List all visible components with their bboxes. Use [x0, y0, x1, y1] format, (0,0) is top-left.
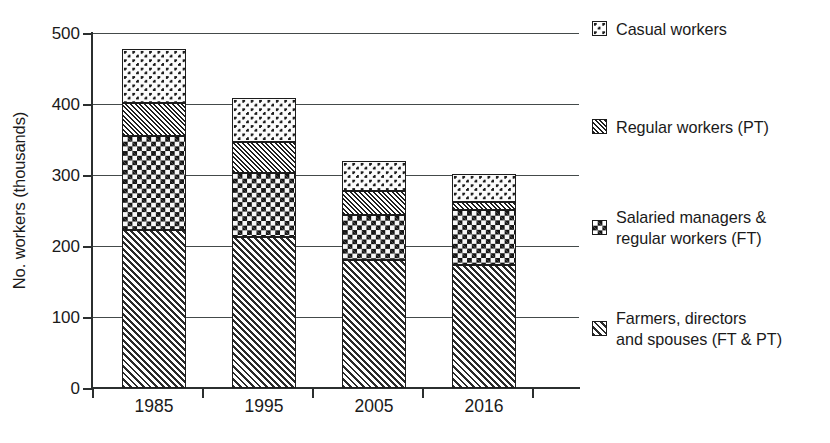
legend-item-farmers-directors[interactable]: Farmers, directors and spouses (FT & PT) [592, 308, 782, 351]
bar-1995-seg-farmers[interactable] [232, 237, 296, 388]
legend-label-salaried-managers: Salaried managers & regular workers (FT) [616, 207, 766, 250]
x-tickmark-2 [312, 388, 314, 398]
x-tickmark-1 [202, 388, 204, 398]
legend: Casual workers Regular workers (PT) Sala… [592, 0, 830, 443]
plot-area [92, 33, 579, 388]
bar-2005-seg-regular-pt[interactable] [342, 191, 406, 215]
bar-1995-seg-casual[interactable] [232, 98, 296, 142]
x-tickmark-3 [422, 388, 424, 398]
y-axis-tick-labels: 500 400 300 200 100 0 [34, 0, 86, 443]
x-axis-tick-labels: 1985 1995 2005 2016 [92, 398, 579, 428]
y-tick-label-200: 200 [52, 238, 80, 255]
stacked-bar-chart: No. workers (thousands) 500 400 300 200 … [0, 0, 830, 443]
bar-1985-seg-casual[interactable] [122, 49, 186, 103]
x-tick-label-2016: 2016 [465, 398, 504, 416]
y-tickmark-300 [83, 175, 92, 177]
bar-2016[interactable] [452, 174, 516, 388]
legend-label-farmers-directors: Farmers, directors and spouses (FT & PT) [616, 308, 782, 351]
y-tickmark-400 [83, 104, 92, 106]
x-tickmark-0 [92, 388, 94, 398]
y-axis-title: No. workers (thousands) [6, 0, 34, 400]
bar-1985-seg-farmers[interactable] [122, 230, 186, 388]
legend-item-regular-workers-pt[interactable]: Regular workers (PT) [592, 117, 769, 138]
bar-1995-seg-salaried[interactable] [232, 173, 296, 237]
y-tickmark-500 [83, 33, 92, 35]
legend-swatch-regular-workers-pt-icon [592, 119, 607, 134]
x-tick-label-2005: 2005 [355, 398, 394, 416]
y-tickmark-0 [83, 388, 92, 390]
legend-swatch-casual-workers-icon [592, 21, 607, 36]
bar-2005-seg-farmers[interactable] [342, 260, 406, 389]
legend-item-casual-workers[interactable]: Casual workers [592, 19, 727, 40]
y-tick-label-400: 400 [52, 96, 80, 113]
y-tickmark-200 [83, 246, 92, 248]
bar-2005-seg-salaried[interactable] [342, 215, 406, 260]
x-tickmark-4 [532, 388, 534, 398]
legend-swatch-farmers-directors-icon [592, 321, 607, 336]
bar-2016-seg-salaried[interactable] [452, 210, 516, 265]
bar-1995-seg-regular-pt[interactable] [232, 142, 296, 173]
legend-label-casual-workers: Casual workers [616, 19, 727, 40]
legend-item-salaried-managers[interactable]: Salaried managers & regular workers (FT) [592, 207, 766, 250]
bar-2005[interactable] [342, 161, 406, 388]
y-tick-label-300: 300 [52, 167, 80, 184]
bar-2005-seg-casual[interactable] [342, 161, 406, 191]
bar-1985-seg-regular-pt[interactable] [122, 103, 186, 136]
bar-1985-seg-salaried[interactable] [122, 136, 186, 230]
bar-2016-seg-farmers[interactable] [452, 265, 516, 388]
y-axis-spine [91, 32, 93, 389]
y-tick-label-0: 0 [71, 380, 80, 397]
gridline-500 [92, 33, 579, 34]
bar-1985[interactable] [122, 49, 186, 388]
legend-label-regular-workers-pt: Regular workers (PT) [616, 117, 769, 138]
x-tick-label-1985: 1985 [135, 398, 174, 416]
bar-2016-seg-casual[interactable] [452, 174, 516, 202]
y-tick-label-100: 100 [52, 309, 80, 326]
legend-swatch-salaried-managers-icon [592, 220, 607, 235]
bar-1995[interactable] [232, 98, 296, 388]
y-tickmark-100 [83, 317, 92, 319]
plot-inner [92, 33, 579, 388]
y-tick-label-500: 500 [52, 25, 80, 42]
bar-2016-seg-regular-pt[interactable] [452, 202, 516, 210]
y-axis-title-text: No. workers (thousands) [11, 111, 30, 288]
x-tick-label-1995: 1995 [245, 398, 284, 416]
